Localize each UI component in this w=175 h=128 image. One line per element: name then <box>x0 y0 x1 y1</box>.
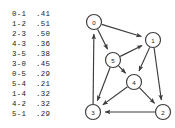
edge-endpoints: 1-2 <box>12 19 36 29</box>
graph-edge-5-to-1 <box>120 45 142 56</box>
edge-list-row: 0-5.29 <box>12 69 74 79</box>
edge-list-row: 4-3.36 <box>12 39 74 49</box>
edge-endpoints: 2-3 <box>12 29 36 39</box>
graph-node-4: 4 <box>127 75 142 90</box>
graph-node-3: 3 <box>86 105 101 120</box>
graph-node-5: 5 <box>106 53 121 68</box>
graph-edge-4-to-3 <box>103 87 128 105</box>
graph-edge-0-to-1 <box>102 24 142 36</box>
graph-svg: 012345 <box>76 0 175 128</box>
graph-node-label: 2 <box>161 109 165 116</box>
graph-node-label: 5 <box>111 57 115 64</box>
graph-edge-3-to-0 <box>93 34 94 104</box>
edge-list-row: 5-1.29 <box>12 109 74 119</box>
graph-edge-1-to-4 <box>139 47 150 71</box>
edge-list-row: 4-2.32 <box>12 99 74 109</box>
edge-weighted-digraph-figure: 0-1.411-2.512-3.504-3.363-5.383-0.450-5.… <box>0 0 175 128</box>
edge-endpoints: 0-5 <box>12 69 36 79</box>
graph-node-2: 2 <box>156 105 171 120</box>
edge-weight: .32 <box>36 99 50 109</box>
edge-endpoints: 3-5 <box>12 49 36 59</box>
edge-list-row: 3-0.45 <box>12 59 74 69</box>
edge-weight: .50 <box>36 29 50 39</box>
edge-list-row: 2-3.50 <box>12 29 74 39</box>
graph-edge-1-to-2 <box>154 48 161 100</box>
edge-weight: .38 <box>36 49 50 59</box>
edge-weight: .45 <box>36 59 50 69</box>
edge-endpoints: 0-1 <box>12 9 36 19</box>
edge-weight: .21 <box>36 79 50 89</box>
edge-list-row: 0-1.41 <box>12 9 74 19</box>
edge-weight: .32 <box>36 89 50 99</box>
graph-node-1: 1 <box>146 33 161 48</box>
graph-node-label: 1 <box>151 37 155 44</box>
edge-list-row: 1-2.51 <box>12 19 74 29</box>
edge-list-row: 5-4.21 <box>12 79 74 89</box>
edge-weight: .29 <box>36 69 50 79</box>
graph-node-label: 4 <box>132 79 136 86</box>
graph-node-0: 0 <box>87 15 102 30</box>
graph-edge-4-to-2 <box>140 88 155 103</box>
graph-edge-5-to-3 <box>97 68 110 101</box>
edge-endpoints: 3-0 <box>12 59 36 69</box>
edge-endpoints: 5-1 <box>12 109 36 119</box>
edge-list-row: 3-5.38 <box>12 49 74 59</box>
edge-endpoints: 1-4 <box>12 89 36 99</box>
edge-weight: .29 <box>36 109 50 119</box>
edge-list-row: 1-4.32 <box>12 89 74 99</box>
graph-node-label: 3 <box>91 109 95 116</box>
edge-endpoints: 5-4 <box>12 79 36 89</box>
edge-weight: .41 <box>36 9 50 19</box>
graph-edge-0-to-5 <box>98 29 108 49</box>
edge-weight: .36 <box>36 39 50 49</box>
edge-endpoints: 4-3 <box>12 39 36 49</box>
graph-edge-5-to-4 <box>119 66 126 73</box>
edge-list: 0-1.411-2.512-3.504-3.363-5.383-0.450-5.… <box>12 9 74 120</box>
graph-diagram: 012345 <box>76 0 175 128</box>
graph-node-label: 0 <box>92 19 96 26</box>
edge-weight: .51 <box>36 19 50 29</box>
edge-endpoints: 4-2 <box>12 99 36 109</box>
